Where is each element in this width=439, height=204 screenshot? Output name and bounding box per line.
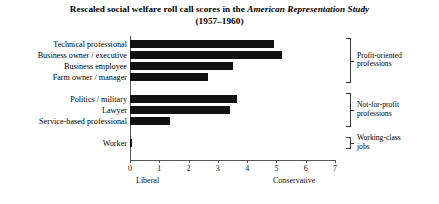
x-tick-label-6: 6 — [296, 164, 316, 173]
x-tick-label-5: 5 — [266, 164, 286, 173]
x-tick-7 — [335, 160, 336, 163]
axis-label-conservative: Conservative — [273, 176, 315, 185]
bar — [130, 51, 282, 59]
group-label: Profit-orientedprofessions — [357, 52, 402, 69]
group-label-line2: professions — [357, 110, 399, 119]
x-tick-3 — [218, 160, 219, 163]
x-axis-line — [130, 160, 335, 161]
category-label: Lawyer — [2, 106, 127, 115]
x-tick-4 — [247, 160, 248, 163]
x-tick-label-4: 4 — [237, 164, 257, 173]
bar — [130, 73, 208, 81]
category-label: Technical professional — [2, 40, 127, 49]
x-tick-label-2: 2 — [179, 164, 199, 173]
bar — [130, 40, 274, 48]
x-tick-0 — [130, 160, 131, 163]
bar — [130, 106, 230, 114]
chart-title: Rescaled social welfare roll call scores… — [0, 3, 439, 27]
category-label: Business employee — [2, 62, 127, 71]
x-tick-label-1: 1 — [149, 164, 169, 173]
group-label: Working-classjobs — [357, 134, 401, 151]
category-label: Worker — [2, 139, 127, 148]
chart-title-plain: Rescaled social welfare roll call scores… — [70, 4, 247, 14]
group-label-line2: professions — [357, 60, 402, 69]
bracket-nub — [351, 110, 354, 111]
x-tick-label-7: 7 — [325, 164, 345, 173]
plot-area: 01234567 — [130, 36, 335, 160]
bar — [130, 117, 170, 125]
bar — [130, 62, 233, 70]
x-tick-2 — [189, 160, 190, 163]
group-label: Not-for-profitprofessions — [357, 101, 399, 118]
axis-label-liberal: Liberal — [136, 176, 159, 185]
chart-title-line2: (1957–1960) — [0, 15, 439, 27]
x-tick-5 — [276, 160, 277, 163]
bar — [130, 139, 132, 147]
chart-title-line1: Rescaled social welfare roll call scores… — [0, 3, 439, 15]
bar — [130, 95, 237, 103]
chart-figure: Rescaled social welfare roll call scores… — [0, 0, 439, 204]
category-label: Business owner / executive — [2, 51, 127, 60]
chart-title-italic: American Representation Study — [247, 4, 369, 14]
bracket-nub — [351, 143, 354, 144]
category-axis-labels: Technical professionalBusiness owner / e… — [0, 36, 127, 160]
x-tick-label-3: 3 — [208, 164, 228, 173]
category-label: Farm owner / manager — [2, 73, 127, 82]
bracket-nub — [351, 61, 354, 62]
group-label-line2: jobs — [357, 143, 401, 152]
category-label: Politics / military — [2, 95, 127, 104]
category-label: Service-based professional — [2, 117, 127, 126]
x-tick-label-0: 0 — [120, 164, 140, 173]
x-tick-6 — [306, 160, 307, 163]
x-tick-1 — [159, 160, 160, 163]
